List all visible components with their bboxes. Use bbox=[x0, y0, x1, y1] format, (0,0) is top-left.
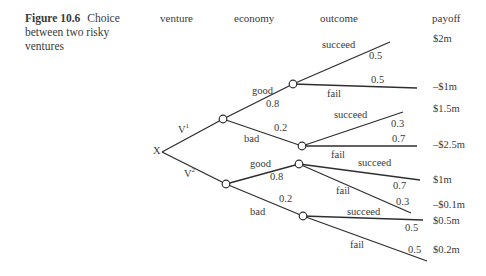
chance-node-v1-bad bbox=[298, 142, 306, 150]
chance-node-v2-good bbox=[295, 160, 303, 168]
v2-bad-succeed-label: succeed bbox=[347, 206, 380, 217]
v2-good-prob: 0.8 bbox=[270, 171, 283, 182]
venture-1-letter: V bbox=[178, 124, 186, 135]
chance-node-v2-bad bbox=[299, 212, 307, 220]
v1-bad-label: bad bbox=[244, 133, 259, 144]
venture-2-sup: 2 bbox=[192, 166, 196, 174]
v2-bad-label: bad bbox=[250, 206, 265, 217]
payoff-v1-good-succeed: $2m bbox=[433, 33, 452, 44]
root-label: X bbox=[153, 145, 161, 156]
payoff-v2-bad-fail: $0.2m bbox=[433, 244, 460, 255]
v2-good-succeed-label: succeed bbox=[358, 157, 391, 168]
v1-good-fail-label: fail bbox=[327, 88, 341, 99]
v2-bad-prob: 0.2 bbox=[279, 193, 292, 204]
payoff-v1-bad-succeed: $1.5m bbox=[433, 103, 460, 114]
venture-2-label: V2 bbox=[184, 166, 195, 179]
v2-good-fail-label: fail bbox=[336, 185, 350, 196]
payoff-v1-good-fail: –$1m bbox=[433, 81, 457, 92]
branch-v1 bbox=[162, 119, 223, 152]
payoff-v1-bad-fail: –$2.5m bbox=[433, 139, 465, 150]
v2-good-label: good bbox=[250, 158, 271, 169]
v1-good-succeed-prob: 0.5 bbox=[369, 50, 382, 61]
decision-tree bbox=[0, 0, 486, 276]
v1-good-succeed-label: succeed bbox=[322, 39, 355, 50]
payoff-v2-good-succeed: $1m bbox=[433, 174, 452, 185]
payoff-v2-bad-succeed: $0.5m bbox=[433, 215, 460, 226]
chance-node-v1 bbox=[219, 115, 227, 123]
v2-bad-fail-prob: 0.5 bbox=[408, 244, 421, 255]
venture-1-sup: 1 bbox=[186, 122, 190, 130]
branch-v1-good-fail bbox=[293, 84, 417, 88]
v2-bad-fail-label: fail bbox=[350, 239, 364, 250]
venture-1-label: V1 bbox=[178, 122, 189, 135]
v2-good-fail-prob: 0.3 bbox=[396, 196, 409, 207]
venture-2-letter: V bbox=[184, 168, 192, 179]
v1-good-fail-prob: 0.5 bbox=[371, 74, 384, 85]
v1-bad-succeed-label: succeed bbox=[334, 109, 367, 120]
payoff-v2-good-fail: –$0.1m bbox=[433, 199, 465, 210]
chance-node-v2 bbox=[222, 180, 230, 188]
v1-bad-fail-prob: 0.7 bbox=[392, 133, 405, 144]
chance-node-v1-good bbox=[289, 80, 297, 88]
v1-good-label: good bbox=[252, 85, 273, 96]
v2-bad-succeed-prob: 0.5 bbox=[405, 222, 418, 233]
v1-good-prob: 0.8 bbox=[266, 98, 279, 109]
v1-bad-succeed-prob: 0.3 bbox=[391, 118, 404, 129]
v1-bad-prob: 0.2 bbox=[274, 122, 287, 133]
v1-bad-fail-label: fail bbox=[331, 149, 345, 160]
v2-good-succeed-prob: 0.7 bbox=[393, 180, 406, 191]
branch-v1-bad bbox=[223, 119, 302, 146]
